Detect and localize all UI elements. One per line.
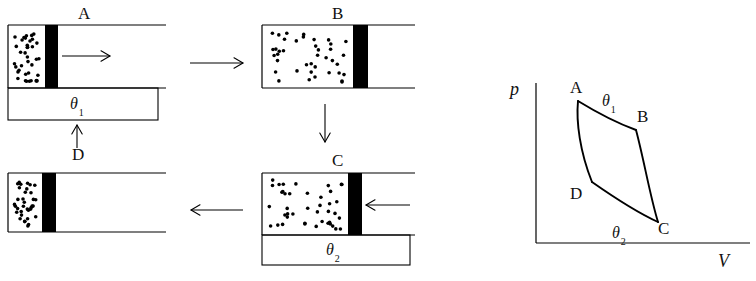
pressure-volume-diagram: p V ABCD θ1θ2	[0, 0, 756, 281]
V-axis-label: V	[718, 252, 729, 270]
pv-plot-svg	[0, 0, 756, 281]
pv-point-label-c: C	[658, 220, 669, 237]
pv-point-label-b: B	[637, 108, 648, 125]
pv-curve-adiabat-BC	[636, 130, 658, 222]
carnot-cycle-figure: Aθ1BCθ2D p V ABCD θ1θ2	[0, 0, 756, 281]
pv-point-label-a: A	[570, 79, 582, 96]
p-axis-label: p	[510, 80, 519, 98]
pv-curve-adiabat-DA	[578, 101, 592, 182]
pv-curve-isotherm-CD	[592, 182, 658, 222]
pv-point-label-d: D	[570, 185, 582, 202]
pv-annotation-isotherm-AB: θ1	[602, 93, 615, 112]
pv-annotation-isotherm-CD: θ2	[612, 225, 625, 244]
